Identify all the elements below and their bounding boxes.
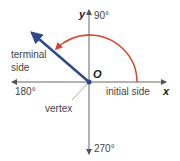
angle-diagram bbox=[0, 0, 180, 161]
angle-90-label: 90° bbox=[94, 10, 109, 21]
vertex-point bbox=[87, 80, 92, 85]
terminal-side-label: terminal bbox=[11, 49, 47, 60]
vertex-pointer bbox=[72, 82, 89, 100]
angle-180-label: 180° bbox=[15, 86, 36, 97]
origin-label: O bbox=[93, 69, 102, 80]
angle-270-label: 270° bbox=[94, 143, 115, 154]
y-axis-label: y bbox=[79, 9, 85, 20]
x-axis-label: x bbox=[163, 86, 169, 97]
terminal-side-label-2: side bbox=[11, 62, 29, 73]
vertex-label: vertex bbox=[45, 103, 72, 114]
initial-side-label: initial side bbox=[106, 86, 150, 97]
